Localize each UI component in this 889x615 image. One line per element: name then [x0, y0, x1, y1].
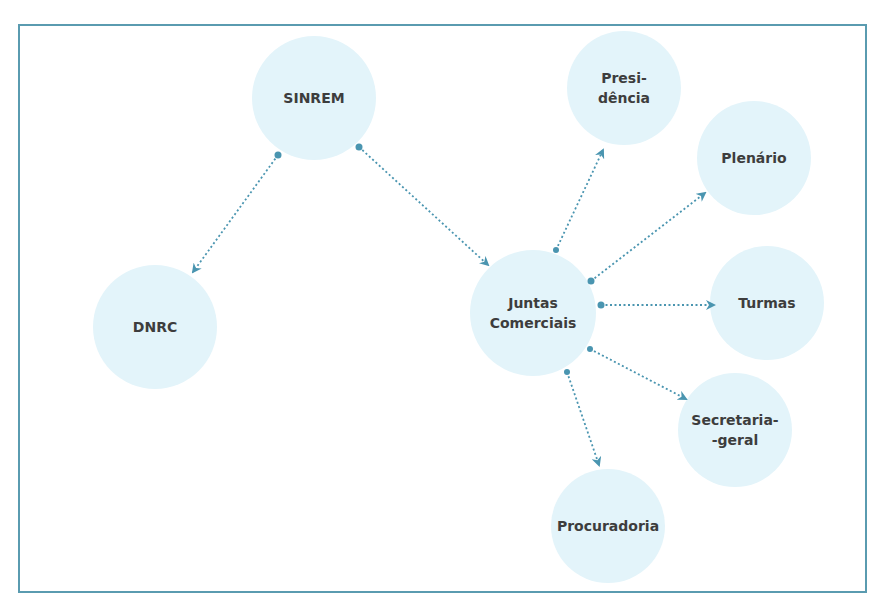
connector-juntas-plenario	[591, 193, 705, 281]
connector-juntas-procuradoria	[567, 372, 599, 465]
connector-juntas-presidencia	[556, 150, 603, 250]
connector-origin-dot	[553, 247, 559, 253]
connector-juntas-secretaria	[590, 349, 686, 399]
connector-sinrem-dnrc	[193, 155, 278, 272]
connector-sinrem-juntas	[359, 147, 488, 265]
connector-origin-dot	[588, 278, 595, 285]
connector-origin-dot	[598, 302, 605, 309]
connector-origin-dot	[564, 369, 570, 375]
connector-origin-dot	[356, 144, 363, 151]
connectors-layer	[0, 0, 889, 615]
connector-origin-dot	[587, 346, 593, 352]
connector-origin-dot	[275, 152, 282, 159]
